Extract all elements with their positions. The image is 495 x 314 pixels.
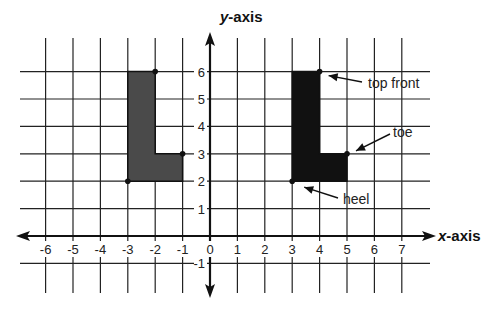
- x-tick-label: 2: [261, 242, 268, 257]
- y-tick-label: 1: [198, 202, 205, 217]
- x-tick-label: -5: [67, 242, 79, 257]
- coordinate-plane: -6-5-4-3-2-101234567654321-1 top frontto…: [0, 0, 495, 314]
- y-tick-label: 5: [198, 92, 205, 107]
- x-tick-label: 7: [398, 242, 405, 257]
- vertex-dot: [317, 69, 323, 75]
- annotation-label-heel: heel: [343, 191, 369, 207]
- y-tick-label: 3: [198, 147, 205, 162]
- arrowhead-icon: [329, 73, 339, 81]
- vertex-dot: [344, 151, 350, 157]
- x-tick-label: -4: [95, 242, 107, 257]
- x-tick-label: -6: [40, 242, 52, 257]
- x-tick-label: 6: [371, 242, 378, 257]
- tick-labels: -6-5-4-3-2-101234567654321-1: [38, 64, 410, 272]
- x-tick-label: -1: [177, 242, 189, 257]
- y-tick-label: 6: [198, 65, 205, 80]
- x-tick-label: 3: [289, 242, 296, 257]
- y-tick-label: -1: [193, 256, 205, 271]
- annotation-label-toe: toe: [393, 124, 413, 140]
- y-tick-label: 2: [198, 174, 205, 189]
- arrowhead-icon: [304, 186, 314, 194]
- vertex-dot: [125, 178, 131, 184]
- vertex-dot: [180, 151, 186, 157]
- y-tick-label: 4: [198, 119, 205, 134]
- y-axis-label: y-axis: [219, 8, 263, 25]
- vertex-dot: [289, 178, 295, 184]
- x-axis-label: x-axis: [437, 227, 481, 244]
- x-tick-label: 4: [316, 242, 323, 257]
- vertex-dot: [152, 69, 158, 75]
- x-tick-label: -2: [149, 242, 161, 257]
- x-tick-label: -3: [122, 242, 134, 257]
- x-tick-label: 0: [206, 242, 213, 257]
- annotation-label-top-front: top front: [368, 75, 419, 91]
- x-tick-label: 5: [343, 242, 350, 257]
- x-tick-label: 1: [234, 242, 241, 257]
